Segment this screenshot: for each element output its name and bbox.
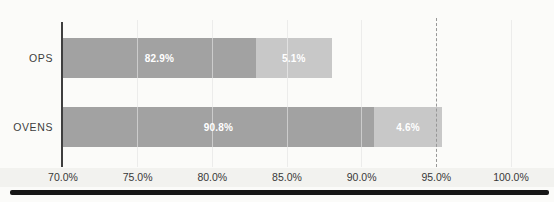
- x-axis-tick-label: 75.0%: [98, 171, 178, 183]
- x-axis-tick-label: 100.0%: [471, 171, 551, 183]
- x-axis-tick-label: 80.0%: [172, 171, 252, 183]
- bottom-divider-rule: [10, 190, 549, 195]
- x-axis-tick-label: 85.0%: [247, 171, 327, 183]
- category-label: OVENS: [0, 107, 53, 147]
- bar-segment-label: 82.9%: [145, 53, 174, 64]
- bar-segment-label: 5.1%: [282, 53, 306, 64]
- reference-line: [436, 18, 437, 167]
- chart-page: 82.9%5.1%OPS90.8%4.6%OVENS 70.0%75.0%80.…: [0, 0, 554, 202]
- category-label: OPS: [0, 38, 53, 78]
- bar-segment: 90.8%: [63, 107, 374, 147]
- bar-segment: 5.1%: [256, 38, 332, 78]
- bar-segment-label: 4.6%: [396, 122, 420, 133]
- bar-segment: 82.9%: [63, 38, 256, 78]
- y-axis-line: [61, 22, 63, 167]
- bar-segment: 4.6%: [374, 107, 443, 147]
- bar-segment-label: 90.8%: [204, 122, 233, 133]
- x-axis-tick-label: 70.0%: [23, 171, 103, 183]
- gridline-overlay: [287, 20, 288, 167]
- gridline-overlay: [511, 20, 512, 167]
- x-axis-tick-label: 90.0%: [322, 171, 402, 183]
- x-axis-tick-label: 95.0%: [396, 171, 476, 183]
- gridline-overlay: [212, 20, 213, 167]
- gridline-overlay: [137, 20, 138, 167]
- gridline-overlay: [361, 20, 362, 167]
